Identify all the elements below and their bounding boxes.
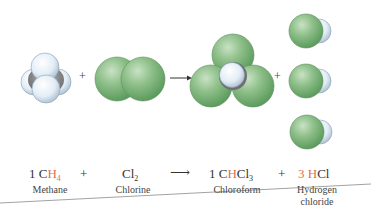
hcl-molecule <box>289 14 331 48</box>
methane-label: Methane <box>22 184 78 196</box>
methane-molecule <box>21 53 71 103</box>
hcl-molecule <box>290 115 332 149</box>
hydrogen-chloride-label: Hydrogen chloride <box>290 184 344 208</box>
chloroform-formula: 1 CHCl3 <box>209 166 253 183</box>
hydrogen-chloride-molecules <box>289 14 332 149</box>
scene-plus-2: + <box>274 69 281 84</box>
methane-formula: 1 CH4 <box>29 166 61 183</box>
plus-sign-1: + <box>80 166 87 182</box>
chloroform-label: Chloroform <box>205 184 269 196</box>
plus-sign-2: + <box>278 166 285 182</box>
chlorine-label: Chlorine <box>108 184 158 196</box>
chlorine-formula: Cl2 <box>122 166 138 183</box>
hcl-molecule <box>289 64 331 98</box>
reaction-arrow-icon <box>170 76 192 81</box>
scene-plus-1: + <box>79 69 86 84</box>
hcl-formula: 3 HCl <box>298 166 329 182</box>
chloroform-molecule <box>190 34 274 107</box>
reaction-arrow: ⟶ <box>170 164 190 181</box>
chlorine-molecule <box>95 57 165 101</box>
